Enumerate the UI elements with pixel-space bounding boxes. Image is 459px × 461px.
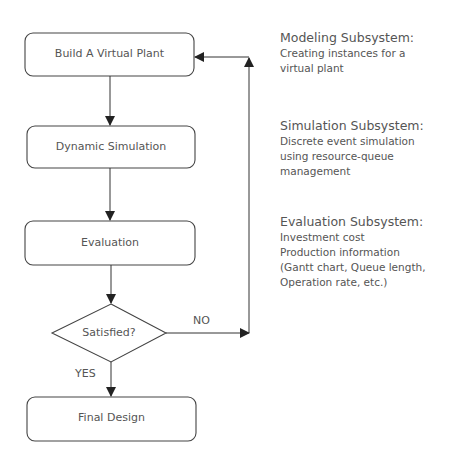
node-label-evaluation: Evaluation xyxy=(25,236,195,249)
simulation-line-3: management xyxy=(280,164,455,179)
modeling-line-1: Creating instances for a xyxy=(280,46,455,61)
node-label-simulation: Dynamic Simulation xyxy=(27,140,195,153)
evaluation-subsystem-title: Evaluation Subsystem: xyxy=(280,214,455,230)
simulation-line-2: using resource-queue xyxy=(280,149,455,164)
node-label-final: Final Design xyxy=(27,411,196,424)
simulation-subsystem-title: Simulation Subsystem: xyxy=(280,118,455,134)
edge-label-no: NO xyxy=(193,314,210,327)
node-label-build: Build A Virtual Plant xyxy=(25,47,194,60)
modeling-line-2: virtual plant xyxy=(280,61,455,76)
evaluation-line-2: Production information xyxy=(280,245,455,260)
edge-label-yes: YES xyxy=(75,367,96,380)
modeling-subsystem-title: Modeling Subsystem: xyxy=(280,30,455,46)
simulation-subsystem-description: Simulation Subsystem: Discrete event sim… xyxy=(280,118,455,179)
modeling-subsystem-description: Modeling Subsystem: Creating instances f… xyxy=(280,30,455,76)
evaluation-line-3: (Gantt chart, Queue length, xyxy=(280,260,455,275)
simulation-line-1: Discrete event simulation xyxy=(280,134,455,149)
evaluation-subsystem-description: Evaluation Subsystem: Investment cost Pr… xyxy=(280,214,455,290)
node-label-decision: Satisfied? xyxy=(52,326,166,339)
evaluation-line-1: Investment cost xyxy=(280,230,455,245)
evaluation-line-4: Operation rate, etc.) xyxy=(280,275,455,290)
